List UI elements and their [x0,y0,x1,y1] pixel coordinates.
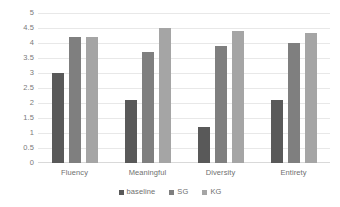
bar-slot [139,13,156,163]
legend-label: SG [177,188,188,196]
bar-slot [212,13,229,163]
legend-item-baseline[interactable]: baseline [119,188,156,196]
y-tick-label: 0.5 [23,144,34,152]
bar-slot [302,13,319,163]
bar[interactable] [232,31,244,163]
bar-chart: 5 4.5 4 3.5 3 2.5 2 1.5 1 0.5 0 Fluency … [0,0,340,207]
bar[interactable] [86,37,98,163]
y-tick-label: 1.5 [23,114,34,122]
bar[interactable] [271,100,283,163]
legend-swatch-icon [169,190,174,195]
legend-swatch-icon [202,190,207,195]
category-label: Meaningful [111,166,184,180]
category-label: Diversity [184,166,257,180]
bar[interactable] [305,33,317,164]
bar-group [38,13,111,163]
bar-slot [83,13,100,163]
legend-label: baseline [127,188,156,196]
legend-item-kg[interactable]: KG [202,188,221,196]
bar[interactable] [198,127,210,163]
bar-slot [195,13,212,163]
bar-slot [229,13,246,163]
bar-groups [38,13,330,163]
category-label: Entirety [257,166,330,180]
bar-slot [66,13,83,163]
bar-group [184,13,257,163]
y-axis: 5 4.5 4 3.5 3 2.5 2 1.5 1 0.5 0 [0,13,34,163]
y-tick-label: 2 [30,99,34,107]
bar[interactable] [142,52,154,163]
legend-label: KG [210,188,221,196]
bar[interactable] [215,46,227,163]
y-tick-label: 0 [30,159,34,167]
bar[interactable] [52,73,64,163]
y-tick-label: 4.5 [23,24,34,32]
bar-slot [156,13,173,163]
bar[interactable] [125,100,137,163]
y-tick-label: 3 [30,69,34,77]
y-tick-label: 1 [30,129,34,137]
x-axis-categories: Fluency Meaningful Diversity Entirety [38,166,330,180]
category-label: Fluency [38,166,111,180]
legend-swatch-icon [119,190,124,195]
legend-item-sg[interactable]: SG [169,188,188,196]
bar-slot [49,13,66,163]
bar-slot [285,13,302,163]
bar[interactable] [69,37,81,163]
chart-legend: baseline SG KG [0,185,340,199]
bar-slot [122,13,139,163]
y-tick-label: 2.5 [23,84,34,92]
y-tick-label: 5 [30,9,34,17]
bar-group [257,13,330,163]
bar[interactable] [288,43,300,163]
y-tick-label: 4 [30,39,34,47]
bar-slot [268,13,285,163]
bar[interactable] [159,28,171,163]
y-tick-label: 3.5 [23,54,34,62]
bar-group [111,13,184,163]
